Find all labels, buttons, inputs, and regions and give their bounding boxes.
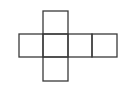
net-square-top	[43, 11, 68, 34]
cube-net-diagram	[0, 0, 127, 90]
net-square-bottom	[43, 57, 68, 81]
net-square-right1	[68, 34, 92, 57]
net-square-center	[43, 34, 68, 57]
net-square-left	[19, 34, 43, 57]
net-square-right2	[92, 34, 117, 57]
